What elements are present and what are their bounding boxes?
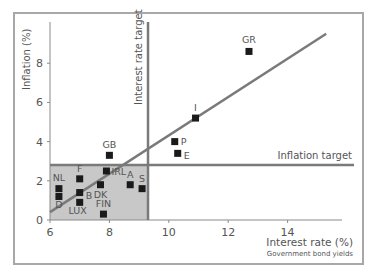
- y-axis-title: Inflation (%): [21, 29, 32, 90]
- data-point-a: [127, 181, 134, 188]
- y-tick-label: 8: [36, 57, 43, 70]
- scatter-chart: 6810121402468 Interest rate targetInflat…: [0, 0, 373, 278]
- point-label: FIN: [96, 198, 111, 209]
- data-point-i: [192, 115, 199, 122]
- x-tick-label: 6: [47, 226, 54, 239]
- data-point-p: [171, 138, 178, 145]
- data-point-f: [76, 175, 83, 182]
- x-tick-label: 10: [162, 226, 176, 239]
- point-label: E: [184, 150, 190, 161]
- point-label: NL: [53, 172, 66, 183]
- point-label: B: [86, 190, 93, 201]
- data-point-fin: [100, 211, 107, 218]
- point-label: LUX: [69, 205, 88, 216]
- y-tick-label: 6: [36, 96, 43, 109]
- point-label: F: [77, 163, 82, 174]
- point-label: S: [139, 173, 145, 184]
- y-tick-label: 4: [36, 136, 43, 149]
- x-tick-label: 12: [221, 226, 235, 239]
- x-tick-label: 8: [106, 226, 113, 239]
- regression-line: [50, 34, 326, 212]
- data-point-irl: [103, 168, 110, 175]
- y-tick-label: 0: [36, 214, 43, 227]
- data-point-b: [76, 189, 83, 196]
- data-point-gr: [245, 48, 252, 55]
- point-label: P: [181, 136, 187, 147]
- data-point-e: [174, 150, 181, 157]
- axis-labels: Inflation (%)Interest rate (%)Government…: [21, 29, 353, 258]
- y-tick-label: 2: [36, 175, 43, 188]
- point-label: IRL: [111, 166, 126, 177]
- x-axis-title: Interest rate (%): [266, 236, 353, 248]
- data-point-gb: [106, 152, 113, 159]
- data-point-nl: [55, 185, 62, 192]
- x-axis-subtitle: Government bond yields: [267, 250, 353, 258]
- inflation-target-label: Inflation target: [278, 150, 353, 161]
- trend-line: [50, 34, 326, 212]
- interest-rate-target-label: Interest rate target: [133, 9, 144, 105]
- point-label: GR: [242, 34, 256, 45]
- data-point-s: [139, 185, 146, 192]
- point-label: D: [55, 199, 62, 210]
- point-label: GB: [102, 139, 116, 150]
- point-label: I: [194, 102, 197, 113]
- data-point-dk: [97, 181, 104, 188]
- point-label: A: [127, 169, 134, 180]
